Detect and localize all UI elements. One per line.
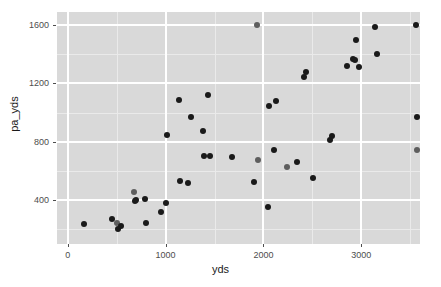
x-axis-tick-label: 0 xyxy=(65,250,70,260)
x-axis: 0100020003000 xyxy=(0,0,441,287)
x-axis-tick-label: 1000 xyxy=(156,250,176,260)
x-axis-tick-label: 3000 xyxy=(351,250,371,260)
x-axis-title: yds xyxy=(0,263,441,275)
x-axis-tick-mark xyxy=(263,244,264,247)
x-axis-tick-mark xyxy=(166,244,167,247)
y-axis-title: pa_yds xyxy=(8,74,20,154)
x-axis-tick-label: 2000 xyxy=(253,250,273,260)
x-axis-tick-mark xyxy=(68,244,69,247)
x-axis-tick-mark xyxy=(361,244,362,247)
scatter-plot-figure: 40080012001600 0100020003000 pa_yds yds xyxy=(0,0,441,287)
